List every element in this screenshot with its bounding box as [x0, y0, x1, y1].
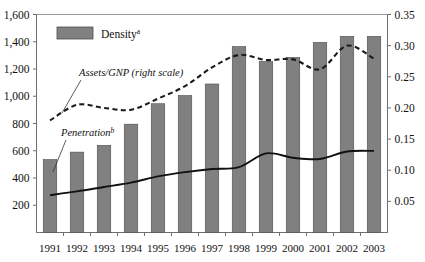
legend-density-label: Densitya [101, 27, 141, 41]
x-tick-label: 2002 [336, 242, 358, 254]
density-bar [286, 57, 300, 232]
right-tick-label: 0.10 [395, 164, 415, 176]
right-tick-label: 0.15 [395, 133, 415, 145]
chart-container: 2004006008001,0001,2001,4001,600 0.050.1… [0, 0, 425, 262]
annotation-assets-gnp-label: Assets/GNP (right scale) [78, 67, 184, 79]
right-tick-label: 0.20 [395, 102, 415, 114]
x-tick-label: 2000 [282, 242, 305, 254]
annotation-assets-gnp: Assets/GNP (right scale) [62, 67, 184, 113]
density-bar [178, 96, 192, 233]
density-bar [367, 36, 381, 232]
x-tick-label: 1998 [228, 242, 251, 254]
x-tick-label: 1993 [93, 242, 116, 254]
density-bar [232, 47, 246, 233]
density-bar [124, 124, 138, 232]
x-tick-label: 1991 [39, 242, 61, 254]
density-bar [43, 160, 57, 233]
x-tick-label: 1992 [66, 242, 88, 254]
x-tick-label: 1995 [147, 242, 170, 254]
density-bar [151, 104, 165, 233]
annotation-penetration-label: Penetrationb [60, 126, 115, 139]
x-tick-label: 2003 [363, 242, 386, 254]
right-tick-label: 0.35 [395, 9, 415, 21]
x-tick-label: 1997 [201, 242, 224, 254]
annotation-assets-gnp-leader [62, 80, 81, 113]
right-axis-ticks: 0.050.100.150.200.250.300.35 [388, 9, 415, 208]
right-tick-label: 0.05 [395, 195, 415, 207]
left-tick-label: 600 [12, 145, 30, 157]
density-bar [340, 36, 354, 232]
annotation-penetration-leader [53, 140, 66, 172]
density-bar [259, 62, 273, 233]
left-tick-label: 1,000 [4, 90, 30, 103]
legend-density-swatch [57, 27, 93, 39]
x-tick-label: 2001 [309, 242, 331, 254]
x-tick-label: 1996 [174, 242, 197, 254]
left-tick-label: 1,400 [4, 36, 30, 49]
right-tick-label: 0.30 [395, 40, 415, 52]
density-bar [313, 42, 327, 232]
left-tick-label: 400 [12, 172, 30, 184]
legend-density: Densitya [57, 27, 141, 41]
left-axis-ticks: 2004006008001,0001,2001,4001,600 [4, 9, 37, 212]
density-bar [97, 145, 111, 232]
x-axis-ticks: 1991199219931994199519961997199819992000… [39, 233, 386, 254]
x-tick-label: 1994 [120, 242, 143, 254]
left-tick-label: 200 [12, 199, 30, 211]
right-tick-label: 0.25 [395, 71, 415, 83]
left-tick-label: 800 [12, 118, 30, 130]
chart-svg: 2004006008001,0001,2001,4001,600 0.050.1… [0, 0, 425, 262]
x-tick-label: 1999 [255, 242, 278, 254]
density-bar [205, 84, 219, 233]
left-tick-label: 1,200 [4, 63, 30, 76]
left-tick-label: 1,600 [4, 9, 30, 22]
